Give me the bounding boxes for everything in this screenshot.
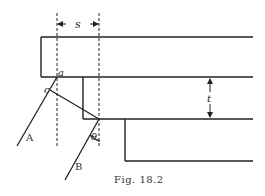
rays	[17, 77, 100, 180]
diagram-canvas: s t a c A B θ Fig. 18.2	[0, 0, 265, 196]
label-s: s	[75, 18, 81, 31]
figure-caption: Fig. 18.2	[114, 174, 164, 185]
label-c: c	[44, 84, 50, 95]
label-theta: θ	[91, 131, 97, 142]
dashed-guides	[57, 13, 99, 148]
ray-A	[17, 77, 57, 146]
label-t: t	[207, 93, 212, 104]
label-a: a	[58, 67, 64, 78]
middle-strip	[83, 77, 253, 119]
bottom-strip	[125, 119, 253, 161]
top-strip	[41, 37, 253, 77]
label-A: A	[25, 132, 34, 143]
label-B: B	[75, 161, 82, 172]
